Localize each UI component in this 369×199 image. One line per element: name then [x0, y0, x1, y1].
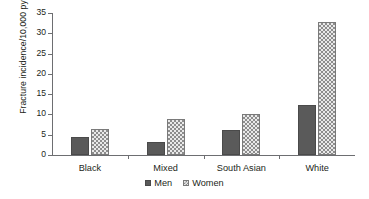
men-swatch-icon [145, 180, 151, 186]
y-axis-tick-mark [48, 94, 52, 95]
x-axis-category-label: Mixed [153, 163, 178, 173]
y-axis-tick-label: 30 [36, 27, 46, 37]
bar-chart-figure: Fracture incidence/10,000 py 05101520253… [0, 0, 369, 199]
bar-women-south-asian [242, 114, 260, 155]
legend-item-women[interactable]: Women [183, 178, 224, 188]
bar-women-mixed [167, 119, 185, 155]
bar-women-black [91, 129, 109, 155]
y-axis-tick-mark [48, 155, 52, 156]
y-axis-tick-label: 25 [36, 48, 46, 58]
y-axis-tick-mark [48, 74, 52, 75]
x-axis-category-label: South Asian [217, 163, 266, 173]
y-axis-tick-mark [48, 54, 52, 55]
bar-men-black [71, 137, 89, 155]
y-axis-tick-label: 0 [41, 149, 46, 159]
legend-label: Women [192, 178, 224, 188]
y-axis-tick-mark [48, 114, 52, 115]
y-axis-tick-label: 35 [36, 7, 46, 17]
plot-area: 05101520253035 BlackMixedSouth AsianWhit… [52, 13, 355, 155]
bar-men-mixed [147, 142, 165, 155]
chart-legend: MenWomen [0, 178, 369, 188]
y-axis-tick-mark [48, 33, 52, 34]
bar-women-white [318, 22, 336, 155]
y-axis-tick-label: 10 [36, 108, 46, 118]
y-axis-tick-label: 20 [36, 68, 46, 78]
bar-men-white [298, 105, 316, 155]
y-axis-line [52, 13, 53, 155]
women-swatch-icon [183, 180, 189, 186]
y-axis-tick-label: 15 [36, 88, 46, 98]
y-axis-tick-mark [48, 135, 52, 136]
x-axis-tick-mark [279, 155, 280, 159]
legend-label: Men [154, 178, 172, 188]
legend-item-men[interactable]: Men [145, 178, 172, 188]
x-axis-category-label: Black [79, 163, 101, 173]
x-axis-category-label: White [305, 163, 329, 173]
x-axis-tick-mark [204, 155, 205, 159]
y-axis-title: Fracture incidence/10,000 py [18, 0, 28, 132]
bar-men-south-asian [222, 130, 240, 155]
y-axis-tick-mark [48, 13, 52, 14]
y-axis-tick-label: 5 [41, 129, 46, 139]
x-axis-tick-mark [128, 155, 129, 159]
